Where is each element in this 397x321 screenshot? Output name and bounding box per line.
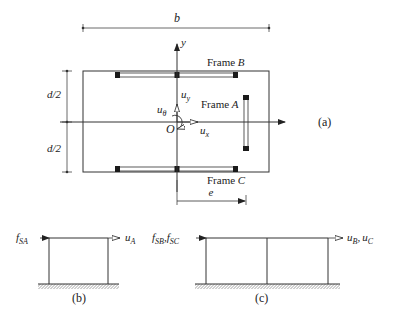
half-depth-bottom-label: d/2 xyxy=(47,142,62,154)
panel-b-label: (b) xyxy=(72,291,86,305)
uy-label: uy xyxy=(181,88,191,103)
column-block xyxy=(243,95,249,100)
displacement-label: uB,uC xyxy=(347,231,374,246)
frame-c: Frame C xyxy=(115,166,246,186)
width-label: b xyxy=(174,11,180,25)
width-dimension: b xyxy=(82,11,271,32)
utheta-label: uθ xyxy=(157,103,167,118)
column-block xyxy=(233,72,238,78)
dof-indicators: uy ux uθ O xyxy=(157,88,210,139)
frame-a-label: Frame A xyxy=(201,98,239,110)
ux-label: ux xyxy=(200,124,210,139)
panel-b-frame-a: fSA uA (b) xyxy=(16,231,136,305)
origin-label: O xyxy=(166,122,175,136)
half-depth-top-label: d/2 xyxy=(47,88,62,100)
structural-diagram: b d/2 d/2 Frame B xyxy=(0,0,397,321)
force-label: fSA xyxy=(16,231,28,246)
frame-c-label: Frame C xyxy=(207,174,246,186)
column-block xyxy=(115,166,120,172)
panel-a-plan: b d/2 d/2 Frame B xyxy=(47,11,331,205)
column-block xyxy=(243,146,249,151)
eccentricity-label: e xyxy=(209,186,214,198)
y-axis-label: y xyxy=(180,36,186,48)
ground-hatch xyxy=(195,284,340,289)
column-block xyxy=(233,166,238,172)
ground-hatch xyxy=(38,284,119,289)
panel-c-label: (c) xyxy=(255,291,268,305)
panel-c-frames-bc: fSB,fSC uB,uC (c) xyxy=(152,231,374,305)
panel-a-label: (a) xyxy=(318,115,331,129)
displacement-label: uA xyxy=(125,231,136,246)
frame-a: Frame A xyxy=(201,95,249,151)
frame-b-label: Frame B xyxy=(207,56,245,68)
frame-b: Frame B xyxy=(115,56,245,78)
force-label: fSB,fSC xyxy=(152,231,180,246)
column-block xyxy=(115,72,120,78)
